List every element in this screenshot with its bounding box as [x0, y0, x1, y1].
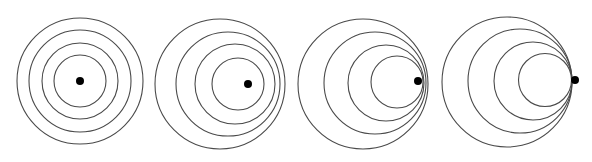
source-point: [244, 80, 252, 88]
wavefront-ring: [348, 45, 424, 121]
wavefront-ring: [519, 54, 572, 107]
wavefront-ring: [195, 44, 275, 124]
wavefront-ring: [442, 17, 572, 147]
wavefront-ring: [298, 19, 428, 149]
panel-subsonic-source: [155, 19, 285, 149]
wavefront-ring: [494, 42, 572, 120]
source-point: [76, 77, 84, 85]
source-point: [414, 77, 422, 85]
panel-sonic-source: [442, 17, 579, 147]
wavefront-ring: [324, 32, 426, 134]
wavefront-diagram: [0, 0, 592, 162]
source-point: [571, 76, 579, 84]
wavefront-ring: [212, 58, 264, 110]
panel-near-sonic-source: [298, 19, 428, 149]
panel-stationary-source: [17, 18, 143, 144]
wavefront-ring: [155, 19, 285, 149]
